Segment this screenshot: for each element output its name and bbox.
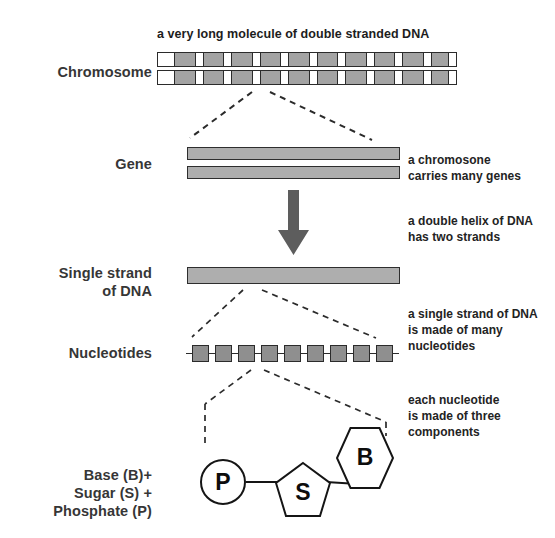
gene-strand-top [187,147,400,160]
gene-strand-bottom [187,166,400,179]
nucleotide-box [261,345,278,362]
caption-gene: a chromosone carries many genes [408,152,553,184]
gene-illustration [187,147,400,179]
nucleotide-link [393,353,399,355]
caption-helix-line1: a double helix of DNA [408,213,553,229]
sugar-label: S [274,479,332,506]
nucleotide-box [192,345,209,362]
nucleotide-components-illustration: P S B [180,426,410,538]
nucleotide-box [353,345,370,362]
caption-strand: a single strand of DNA is made of many n… [408,306,553,354]
phosphate-label: P [202,469,244,496]
nucleotide-box [284,345,301,362]
nucleotide-box [330,345,347,362]
nucleotide-box [215,345,232,362]
sugar-pentagon: S [274,461,332,519]
nucleotide-box [238,345,255,362]
phosphate-circle: P [200,459,246,505]
caption-gene-line1: a chromosone [408,152,553,168]
nucleotide-box [307,345,324,362]
single-strand-bar [187,267,400,284]
caption-nucleotide: each nucleotide is made of three compone… [408,392,553,440]
caption-nucleotide-line1: each nucleotide [408,392,553,408]
connector-strand-to-nucleotides [192,290,376,338]
caption-helix-line2: has two strands [408,229,553,245]
base-label: B [336,444,394,471]
base-hexagon: B [336,426,394,490]
nucleotide-chain [186,345,399,362]
caption-strand-line2: is made of many [408,322,553,338]
caption-nucleotide-line3: components [408,424,553,440]
caption-strand-line3: nucleotides [408,338,553,354]
dna-structure-diagram: a very long molecule of double stranded … [0,0,555,538]
caption-strand-line1: a single strand of DNA [408,306,553,322]
connector-chromosome-to-gene [190,92,372,140]
caption-helix: a double helix of DNA has two strands [408,213,553,245]
nucleotide-box [376,345,393,362]
down-arrow-icon [277,190,313,256]
caption-gene-line2: carries many genes [408,168,553,184]
caption-nucleotide-line2: is made of three [408,408,553,424]
